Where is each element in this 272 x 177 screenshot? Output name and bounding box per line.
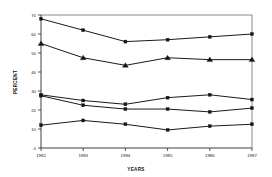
data-point-marker <box>251 98 254 101</box>
y-tick-label: 20 <box>31 108 36 113</box>
series-path <box>41 96 252 112</box>
data-point-marker <box>208 35 211 38</box>
x-tick-label: 1987 <box>247 153 257 158</box>
data-point-marker <box>251 123 254 126</box>
data-point-marker <box>82 99 85 102</box>
line-chart: 010203040506070 198219831984198519861987… <box>0 0 272 177</box>
y-axis: 010203040506070 <box>31 13 41 151</box>
data-point-marker <box>40 17 43 20</box>
data-point-marker <box>82 29 85 32</box>
data-point-marker <box>124 108 127 111</box>
data-point-marker <box>124 40 127 43</box>
series-path <box>41 44 252 66</box>
series-series-1 <box>40 17 254 43</box>
series-series-2 <box>38 41 255 67</box>
data-point-marker <box>208 93 211 96</box>
x-tick-group: 198219831984198519861987 <box>36 148 257 158</box>
series-series-5 <box>40 119 254 132</box>
x-tick-label: 1985 <box>163 153 173 158</box>
data-point-marker <box>40 94 43 97</box>
data-point-marker <box>82 104 85 107</box>
data-point-marker <box>124 103 127 106</box>
data-point-marker <box>208 125 211 128</box>
y-tick-label: 30 <box>31 89 36 94</box>
data-point-marker <box>166 108 169 111</box>
y-tick-label: 70 <box>31 13 36 18</box>
plot-frame <box>41 15 252 148</box>
series-series-4 <box>40 94 254 113</box>
x-axis-title: YEARS <box>127 167 144 172</box>
y-tick-label: 10 <box>31 127 36 132</box>
data-point-marker <box>166 128 169 131</box>
x-tick-label: 1986 <box>205 153 215 158</box>
y-tick-label: 60 <box>31 32 36 37</box>
y-tick-label: 40 <box>31 70 36 75</box>
data-point-marker <box>251 33 254 36</box>
x-tick-label: 1983 <box>78 153 88 158</box>
series-path <box>41 120 252 130</box>
y-tick-group: 010203040506070 <box>31 13 41 151</box>
data-point-marker <box>40 124 43 127</box>
data-point-marker <box>251 107 254 110</box>
x-axis: 198219831984198519861987 <box>36 148 257 158</box>
data-point-marker <box>82 119 85 122</box>
y-tick-label: 50 <box>31 51 36 56</box>
data-point-marker <box>124 123 127 126</box>
y-tick-label: 0 <box>34 146 37 151</box>
x-tick-label: 1982 <box>36 153 46 158</box>
y-axis-title: PERCENT <box>13 70 18 94</box>
data-point-marker <box>166 38 169 41</box>
series-layer <box>38 17 255 131</box>
chart-canvas: 010203040506070 198219831984198519861987… <box>0 0 272 177</box>
x-tick-label: 1984 <box>121 153 131 158</box>
series-series-3 <box>40 93 254 106</box>
data-point-marker <box>208 110 211 113</box>
series-path <box>41 19 252 42</box>
data-point-marker <box>38 41 44 46</box>
data-point-marker <box>166 96 169 99</box>
